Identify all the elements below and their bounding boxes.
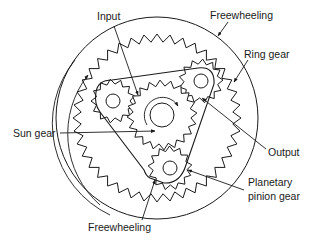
label-ring-gear: Ring gear <box>244 48 290 60</box>
label-planetary-pinion-gear: Planetary pinion gear <box>248 176 308 203</box>
label-freewheeling-top: Freewheeling <box>210 9 273 21</box>
freewheeling-top-leader <box>218 22 228 36</box>
label-freewheeling-bottom: Freewheeling <box>88 221 151 233</box>
pinion-hole-upper-right <box>194 74 208 88</box>
label-input: Input <box>97 10 120 22</box>
label-sun-gear: Sun gear <box>13 127 56 139</box>
pinion-hole-bottom <box>163 161 177 175</box>
planetary-gear-diagram <box>0 0 312 241</box>
pinion-hole-upper-left <box>106 94 120 108</box>
label-output: Output <box>268 146 300 158</box>
output-leader <box>202 98 266 149</box>
sun-gear-hub <box>150 103 174 127</box>
